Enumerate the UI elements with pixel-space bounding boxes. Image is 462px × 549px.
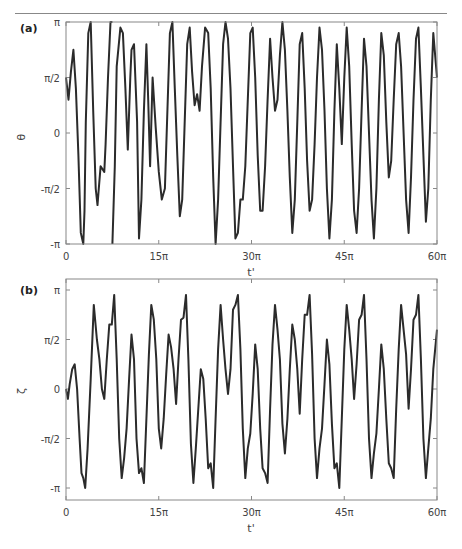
panel-a-curve <box>66 22 437 244</box>
y-tick-label: -π <box>50 483 60 494</box>
y-tick-label: -π/2 <box>41 434 60 445</box>
x-tick-label: 45π <box>335 251 354 262</box>
x-tick-label: 15π <box>149 507 168 518</box>
x-tick-label: 60π <box>428 507 447 518</box>
panel-b-xlabel: t' <box>247 522 254 535</box>
x-tick-label: 0 <box>63 251 69 262</box>
panel-b-curve <box>66 295 437 488</box>
series-line-zeta <box>66 295 437 488</box>
x-tick-label: 45π <box>335 507 354 518</box>
y-tick-label: 0 <box>54 128 60 139</box>
y-tick-label: -π/2 <box>41 184 60 195</box>
panel-b-ylabel: ζ <box>15 388 28 394</box>
y-tick-label: -π <box>50 239 60 250</box>
x-tick-label: 30π <box>242 507 261 518</box>
y-tick-label: π <box>54 17 60 28</box>
panel-a-theta-plot: (a) θ t' 015π30π45π60πππ/20-π/2-π <box>15 17 446 279</box>
panel-a-ylabel: θ <box>15 133 28 140</box>
y-tick-label: π/2 <box>44 73 60 84</box>
x-tick-label: 30π <box>242 251 261 262</box>
y-tick-label: π/2 <box>44 335 60 346</box>
panel-a-ticks: 015π30π45π60πππ/20-π/2-π <box>41 17 447 262</box>
x-tick-label: 0 <box>63 507 69 518</box>
figure: (a) θ t' 015π30π45π60πππ/20-π/2-π (b) ζ … <box>0 0 462 549</box>
y-tick-label: π <box>54 285 60 296</box>
y-tick-label: 0 <box>54 384 60 395</box>
panel-a-xlabel: t' <box>247 266 254 279</box>
panel-b-zeta-plot: (b) ζ t' 015π30π45π60πππ/20-π/2-π <box>15 279 446 535</box>
panel-a-label: (a) <box>20 22 37 35</box>
x-tick-label: 60π <box>428 251 447 262</box>
x-tick-label: 15π <box>149 251 168 262</box>
panel-b-label: (b) <box>20 284 38 297</box>
series-line-theta <box>66 22 112 244</box>
series-line-theta <box>112 22 437 244</box>
